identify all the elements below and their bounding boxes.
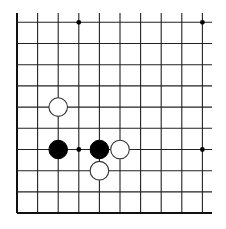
star-point-icon: [200, 20, 205, 25]
star-point-icon: [76, 147, 81, 152]
star-point-icon: [76, 20, 81, 25]
white-stone-icon[interactable]: [49, 98, 68, 117]
go-board-canvas[interactable]: [0, 0, 226, 229]
star-point-icon: [200, 147, 205, 152]
white-stone-icon[interactable]: [111, 140, 130, 159]
go-board[interactable]: [0, 0, 226, 229]
stones: [49, 98, 129, 180]
black-stone-icon[interactable]: [49, 140, 68, 159]
black-stone-icon[interactable]: [90, 140, 109, 159]
grid-lines: [17, 13, 212, 213]
white-stone-icon[interactable]: [90, 161, 109, 180]
